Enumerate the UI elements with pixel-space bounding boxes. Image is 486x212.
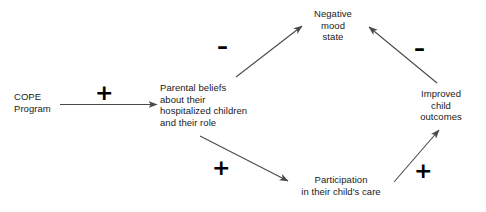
node-negative-mood-state: Negative mood state bbox=[297, 8, 369, 43]
node-parental-beliefs: Parental beliefs about their hospitalize… bbox=[160, 82, 264, 128]
edge-sign-beliefs-to-negative: – bbox=[217, 36, 228, 58]
edge-improved-to-negative bbox=[369, 27, 437, 83]
edge-sign-improved-to-negative: – bbox=[414, 38, 425, 60]
node-participation-in-care: Participation in their child's care bbox=[283, 174, 399, 197]
edge-sign-participation-to-improved: + bbox=[414, 160, 432, 182]
causal-diagram: COPE Program Parental beliefs about thei… bbox=[0, 0, 486, 212]
edge-sign-beliefs-to-participation: + bbox=[212, 157, 230, 179]
node-cope-program: COPE Program bbox=[14, 91, 84, 114]
edge-beliefs-to-negative bbox=[236, 26, 302, 77]
edge-sign-cope-to-beliefs: + bbox=[95, 82, 113, 104]
node-improved-child-outcomes: Improved child outcomes bbox=[405, 88, 477, 123]
